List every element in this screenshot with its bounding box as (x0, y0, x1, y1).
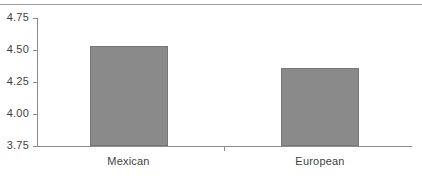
y-axis-line (37, 18, 38, 146)
y-axis-tick-label-text: 3.75 (0, 140, 29, 151)
y-axis-tick-label-text: 4.50 (0, 44, 29, 55)
y-axis-tick-mark (33, 18, 37, 19)
bar (281, 68, 359, 146)
bar (90, 46, 168, 146)
x-axis-category-label: European (260, 155, 380, 167)
x-axis-category-label: Mexican (69, 155, 189, 167)
y-axis-tick-mark (33, 50, 37, 51)
plot-area: 4.754.504.254.003.75 MexicanEuropean (0, 0, 422, 180)
y-axis-tick-label-text: 4.00 (0, 108, 29, 119)
y-axis-tick-label-text: 4.75 (0, 12, 29, 23)
bar-chart-figure: 4.754.504.254.003.75 MexicanEuropean (0, 0, 422, 180)
y-axis-tick-mark (33, 114, 37, 115)
y-axis-tick-label-text: 4.25 (0, 76, 29, 87)
y-axis-tick-mark (33, 82, 37, 83)
y-axis-tick-mark (33, 146, 37, 147)
x-axis-tick-mark (224, 147, 225, 151)
